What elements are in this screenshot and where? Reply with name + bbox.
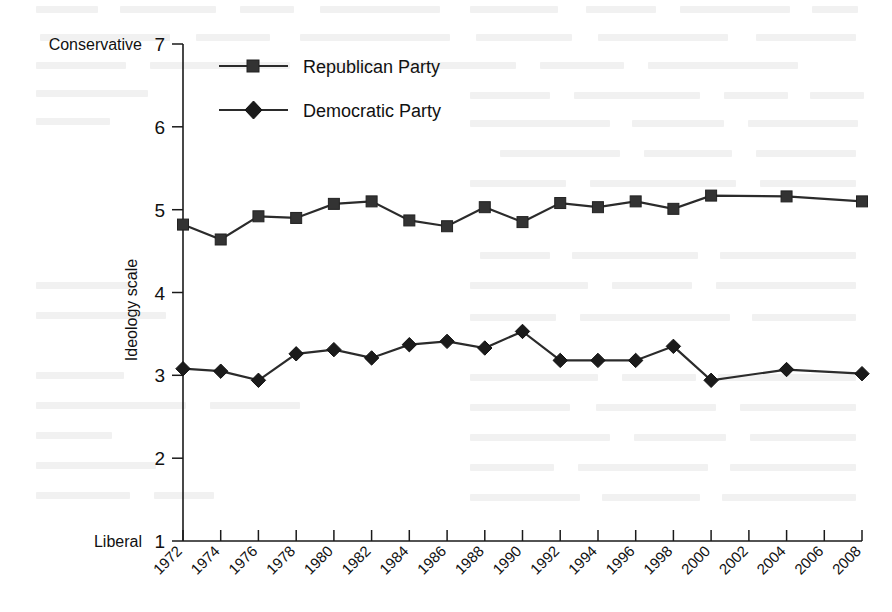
data-point-1998 [668,203,679,214]
chart-svg: 7 6 5 4 3 2 1 Conservative Liberal Ideol… [0,0,892,612]
data-point-1976 [251,373,265,387]
x-axis: 1972 1974 1976 1978 1980 1982 1984 1986 … [150,530,865,578]
y-tick-label-7: 7 [154,34,165,55]
data-point-1972 [178,219,189,230]
data-point-1986 [442,221,453,232]
data-point-2004 [781,191,792,202]
y-tick-label-1: 1 [154,531,165,552]
data-point-2008 [857,196,868,207]
series-democratic-party [176,324,869,387]
data-point-1990 [517,217,528,228]
x-tick-label-1992: 1992 [527,542,563,578]
y-axis-bottom-anchor-label: Liberal [94,533,142,550]
data-point-1978 [289,347,303,361]
y-tick-label-4: 4 [154,283,165,304]
ideology-scale-line-chart: 7 6 5 4 3 2 1 Conservative Liberal Ideol… [0,0,892,612]
data-point-1984 [402,337,416,351]
data-point-1996 [630,196,641,207]
data-point-1974 [214,364,228,378]
x-tick-label-1986: 1986 [414,542,450,578]
legend-label-republican-party: Republican Party [303,57,440,77]
legend-item-republican-party[interactable]: Republican Party [219,57,440,77]
data-point-1986 [440,334,454,348]
x-tick-label-1974: 1974 [187,542,223,578]
x-tick-label-1994: 1994 [565,542,601,578]
legend-item-democratic-party[interactable]: Democratic Party [219,101,441,121]
data-point-1994 [592,202,603,213]
data-point-1980 [327,342,341,356]
data-point-1982 [364,351,378,365]
data-point-1996 [628,353,642,367]
data-point-2000 [706,190,717,201]
x-tick-label-1978: 1978 [263,542,299,578]
y-tick-label-2: 2 [154,448,165,469]
data-point-1972 [176,362,190,376]
data-point-1988 [479,202,490,213]
data-point-2004 [779,362,793,376]
data-point-1974 [215,234,226,245]
data-point-1982 [366,196,377,207]
x-tick-label-2006: 2006 [791,542,827,578]
x-tick-label-1976: 1976 [225,542,261,578]
y-axis-top-anchor-label: Conservative [49,36,142,53]
data-point-1992 [555,198,566,209]
legend: Republican Party Democratic Party [219,57,441,121]
x-tick-label-2000: 2000 [678,542,714,578]
data-point-2008 [855,366,869,380]
legend-diamond-marker-icon [245,101,262,119]
data-point-1976 [253,211,264,222]
y-tick-label-5: 5 [154,200,165,221]
data-point-1988 [478,341,492,355]
x-tick-label-2004: 2004 [753,542,789,578]
y-axis-title: Ideology scale [123,259,140,361]
legend-square-marker-icon [247,60,259,72]
data-point-1994 [591,353,605,367]
x-tick-label-1988: 1988 [451,542,487,578]
y-tick-label-3: 3 [154,365,165,386]
x-tick-label-1990: 1990 [489,542,525,578]
data-point-1978 [291,212,302,223]
series-layer [176,190,869,387]
data-point-1980 [328,198,339,209]
y-axis: 7 6 5 4 3 2 1 Conservative Liberal Ideol… [49,34,183,552]
series-republican-party [178,190,868,245]
x-tick-label-1996: 1996 [602,542,638,578]
x-tick-label-1982: 1982 [338,542,374,578]
x-tick-label-2008: 2008 [829,542,865,578]
x-tick-label-2002: 2002 [715,542,751,578]
data-point-1984 [404,215,415,226]
x-tick-label-1980: 1980 [300,542,336,578]
x-tick-label-1984: 1984 [376,542,412,578]
x-tick-label-1998: 1998 [640,542,676,578]
y-tick-label-6: 6 [154,117,165,138]
legend-label-democratic-party: Democratic Party [303,101,441,121]
